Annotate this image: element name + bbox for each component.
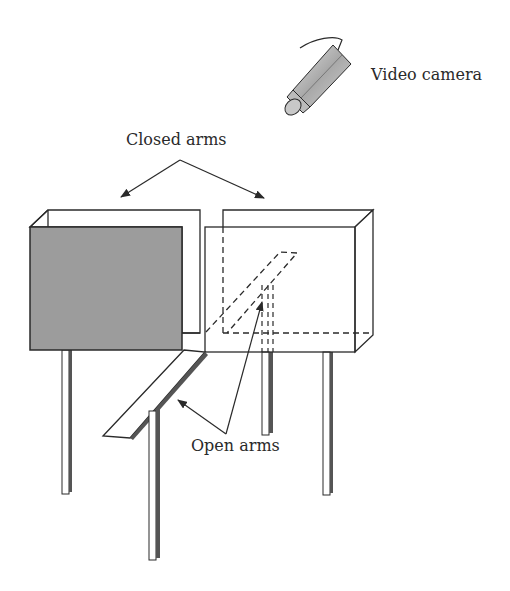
elevated-plus-maze-diagram: Video camera Closed arms Open arms [0,0,510,591]
video-camera-icon [282,38,351,119]
leg-left [62,350,72,494]
maze-drawing [0,0,510,591]
open-arms-label: Open arms [191,436,280,455]
closed-arms-label: Closed arms [126,130,227,149]
closed-arm-left [30,210,200,350]
closed-arms-arrows [121,160,264,198]
video-camera-label: Video camera [371,65,482,84]
closed-arm-right [205,210,373,352]
leg-right [323,352,333,495]
leg-middle [262,285,273,435]
leg-front [149,408,160,560]
